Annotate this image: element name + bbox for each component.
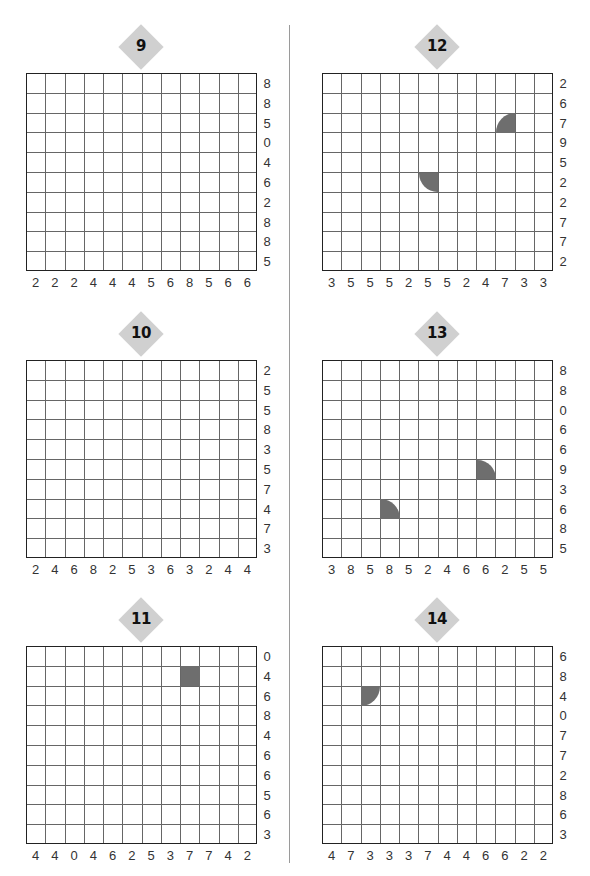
grid-cell[interactable] [535,114,553,133]
grid-cell[interactable] [381,519,399,538]
grid-cell[interactable] [104,94,122,113]
grid-cell[interactable] [458,440,476,459]
grid-cell[interactable] [362,786,380,805]
grid-cell[interactable] [323,114,341,133]
grid-cell[interactable] [200,825,218,844]
grid-cell[interactable] [239,746,257,765]
grid-cell[interactable] [66,480,84,499]
grid-cell[interactable] [535,440,553,459]
grid-cell[interactable] [27,825,45,844]
grid-cell[interactable] [381,361,399,380]
grid-cell[interactable] [439,114,457,133]
grid-cell[interactable] [496,825,514,844]
grid-cell[interactable] [181,726,199,745]
grid-cell[interactable] [458,193,476,212]
grid-cell[interactable] [46,519,64,538]
grid-cell[interactable] [27,647,45,666]
grid-cell[interactable] [220,173,238,192]
grid-cell[interactable] [458,746,476,765]
grid-cell[interactable] [143,252,161,271]
grid-cell[interactable] [323,726,341,745]
grid-cell[interactable] [123,726,141,745]
grid-cell[interactable] [104,232,122,251]
grid-cell[interactable] [239,480,257,499]
grid-cell[interactable] [439,440,457,459]
grid-cell[interactable] [516,766,534,785]
grid-cell[interactable] [362,825,380,844]
grid-cell[interactable] [362,153,380,172]
grid-cell[interactable] [323,825,341,844]
grid-cell[interactable] [181,500,199,519]
grid-cell[interactable] [439,726,457,745]
grid-cell[interactable] [439,381,457,400]
grid-cell[interactable] [220,401,238,420]
grid-cell[interactable] [477,647,495,666]
grid-cell[interactable] [46,401,64,420]
grid-cell[interactable] [458,805,476,824]
grid-cell[interactable] [477,94,495,113]
grid-cell[interactable] [400,805,418,824]
grid-cell[interactable] [535,786,553,805]
grid-cell[interactable] [439,94,457,113]
grid-cell[interactable] [143,74,161,93]
grid-cell[interactable] [200,667,218,686]
grid-cell[interactable] [85,213,103,232]
grid-cell[interactable] [143,133,161,152]
grid-cell[interactable] [323,539,341,558]
grid-cell[interactable] [27,706,45,725]
grid-cell[interactable] [46,539,64,558]
grid-cell[interactable] [66,193,84,212]
grid-cell[interactable] [85,766,103,785]
grid-cell[interactable] [496,667,514,686]
grid-cell[interactable] [239,133,257,152]
grid-cell[interactable] [66,401,84,420]
grid-cell[interactable] [123,193,141,212]
grid-cell[interactable] [516,519,534,538]
grid-cell[interactable] [123,805,141,824]
grid-cell[interactable] [400,480,418,499]
grid-cell[interactable] [535,213,553,232]
grid-cell[interactable] [535,401,553,420]
grid-cell[interactable] [458,647,476,666]
grid-cell[interactable] [162,361,180,380]
grid-cell[interactable] [239,440,257,459]
grid-cell[interactable] [439,401,457,420]
grid-cell[interactable] [400,667,418,686]
grid-cell[interactable] [46,114,64,133]
grid-cell[interactable] [400,706,418,725]
grid-cell[interactable] [477,193,495,212]
grid-cell[interactable] [104,173,122,192]
grid-cell[interactable] [439,786,457,805]
grid-cell[interactable] [419,440,437,459]
grid-cell[interactable] [400,173,418,192]
grid-cell[interactable] [496,381,514,400]
grid-cell[interactable] [342,213,360,232]
grid-cell[interactable] [27,726,45,745]
grid-cell[interactable] [381,766,399,785]
grid-cell[interactable] [362,401,380,420]
grid-cell[interactable] [104,401,122,420]
grid-cell[interactable] [85,114,103,133]
grid-cell[interactable] [496,519,514,538]
grid-cell[interactable] [239,726,257,745]
grid-cell[interactable] [342,420,360,439]
grid-cell[interactable] [381,94,399,113]
grid-cell[interactable] [381,401,399,420]
grid-cell[interactable] [239,706,257,725]
grid-cell[interactable] [220,213,238,232]
grid-cell[interactable] [66,94,84,113]
grid-cell[interactable] [535,805,553,824]
grid-cell[interactable] [143,825,161,844]
grid-cell[interactable] [342,726,360,745]
grid-cell[interactable] [516,539,534,558]
grid-cell[interactable] [162,381,180,400]
grid-cell[interactable] [439,153,457,172]
grid-cell[interactable] [439,746,457,765]
grid-cell[interactable] [181,460,199,479]
grid-cell[interactable] [239,94,257,113]
grid-cell[interactable] [496,440,514,459]
grid-cell[interactable] [123,213,141,232]
grid-cell[interactable] [104,213,122,232]
grid-cell[interactable] [239,420,257,439]
grid-cell[interactable] [104,786,122,805]
